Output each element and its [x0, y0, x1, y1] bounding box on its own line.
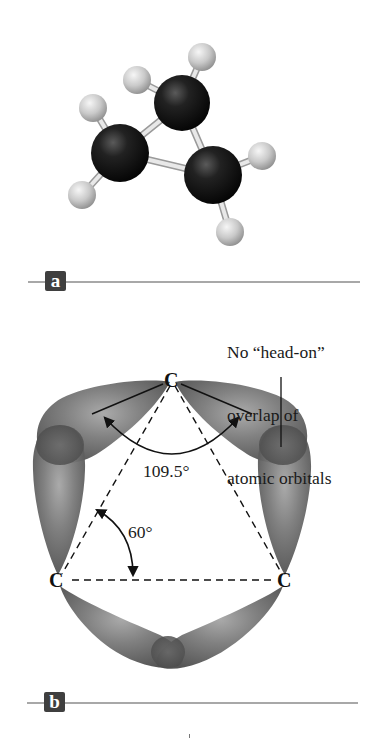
callout-line: overlap of: [227, 405, 332, 426]
scan-speck: [189, 734, 190, 738]
carbon-label-bottom-left: C: [49, 570, 63, 590]
overlap-region: [36, 425, 84, 465]
callout-no-head-on-overlap: No “head-on” overlap of atomic orbitals: [227, 300, 332, 510]
hydrogen-atom: [248, 142, 276, 170]
hydrogen-atom: [79, 94, 107, 122]
angle-label-60: 60°: [128, 523, 153, 541]
figure-canvas: [0, 0, 390, 739]
angle-arc-60: [97, 510, 133, 575]
carbon-label-bottom-right: C: [277, 570, 291, 590]
panel-a-rule: [28, 281, 360, 283]
carbon-atom: [91, 124, 149, 182]
carbon-label-top: C: [164, 370, 178, 390]
hydrogen-atom: [216, 218, 244, 246]
panel-b-rule: [27, 702, 358, 704]
angle-label-109: 109.5°: [143, 462, 189, 480]
panel-b-label: b: [44, 692, 65, 712]
callout-line: No “head-on”: [227, 342, 332, 363]
carbon-atom: [184, 146, 242, 204]
panel-a-label: a: [45, 271, 66, 291]
overlap-region: [151, 636, 185, 668]
hydrogen-atom: [68, 181, 96, 209]
cyclopropane-model: [68, 43, 276, 246]
hydrogen-atom: [123, 66, 151, 94]
carbon-atom: [154, 75, 210, 131]
callout-line: atomic orbitals: [227, 468, 332, 489]
hydrogen-atom: [188, 43, 216, 71]
